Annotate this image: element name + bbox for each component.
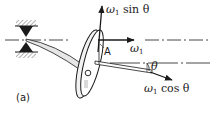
label-point-a: A: [104, 46, 111, 57]
label-theta: θ: [151, 60, 158, 73]
vector-cos-arrow: [150, 72, 172, 80]
label-omega-cos: ω1 cos θ: [144, 82, 190, 96]
label-omega: ω1: [130, 42, 143, 56]
gyroscope-diagram: ω1 sin θ ω1 ω1 cos θ A θ (a): [0, 0, 218, 114]
panel-label: (a): [16, 92, 30, 103]
pivot-point-o: [85, 70, 91, 76]
label-omega-sin: ω1 sin θ: [106, 3, 150, 17]
